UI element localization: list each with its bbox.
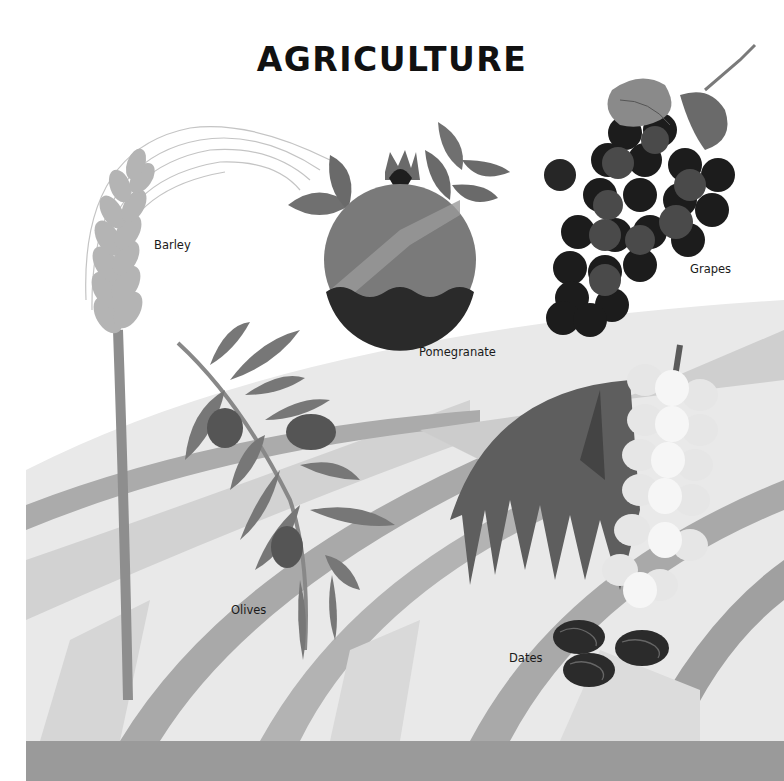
page-title: AGRICULTURE (0, 40, 784, 79)
scene-artwork (0, 0, 784, 781)
agriculture-illustration: AGRICULTURE Barley Pomegranate Grapes Ol… (0, 0, 784, 781)
pomegranate-label: Pomegranate (419, 345, 496, 359)
olives-label: Olives (231, 603, 266, 617)
grapes-label: Grapes (690, 262, 731, 276)
ground-band (26, 741, 784, 781)
grapes-icon (544, 45, 755, 337)
field-background (26, 300, 784, 741)
dates-label: Dates (509, 651, 542, 665)
barley-label: Barley (154, 238, 191, 252)
